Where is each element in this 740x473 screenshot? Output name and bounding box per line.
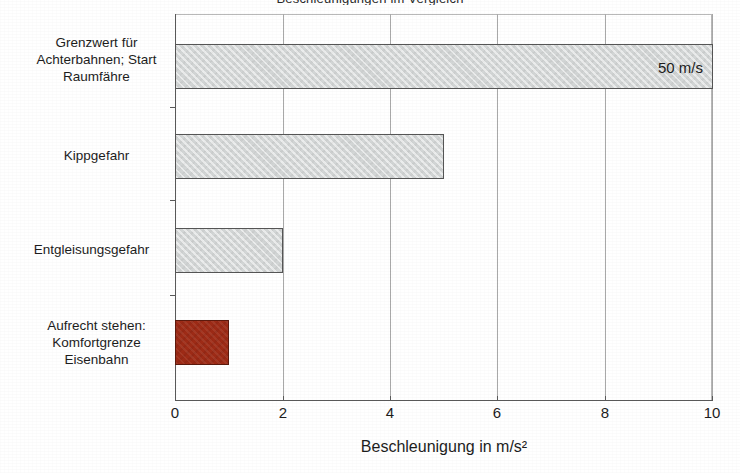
xtick-label-6: 6 <box>493 404 501 421</box>
xtick-label-2: 2 <box>279 404 287 421</box>
ytick-mark-1 <box>170 107 175 108</box>
xtick-label-10: 10 <box>704 404 721 421</box>
bar-value-label-1: 50 m/s <box>658 58 703 75</box>
xtick-mark-10 <box>712 396 713 401</box>
ytick-mark-3 <box>170 295 175 296</box>
xtick-mark-6 <box>497 396 498 401</box>
bar-grenzwert-achterbahnen[interactable]: 50 m/s <box>175 44 713 89</box>
xtick-label-4: 4 <box>386 404 394 421</box>
ytick-mark-2 <box>170 200 175 201</box>
xtick-mark-4 <box>390 396 391 401</box>
xtick-label-0: 0 <box>171 404 179 421</box>
xtick-mark-0 <box>175 396 176 401</box>
x-axis-line <box>175 400 713 401</box>
category-label-entgleisungsgefahr: Entgleisungsgefahr <box>14 241 169 258</box>
bar-kippgefahr[interactable] <box>175 134 444 179</box>
bar-entgleisungsgefahr[interactable] <box>175 228 283 273</box>
xtick-mark-8 <box>605 396 606 401</box>
xtick-label-8: 8 <box>601 404 609 421</box>
xtick-mark-2 <box>283 396 284 401</box>
category-label-grenzwert-achterbahnen: Grenzwert für Achterbahnen; Start Raumfä… <box>24 34 169 85</box>
chart-title-clipped: Beschleunigungen im Vergleich <box>0 0 740 5</box>
bar-chart: Beschleunigungen im Vergleich 50 m/s Gre… <box>0 0 740 473</box>
category-label-aufrecht-stehen: Aufrecht stehen: Komfortgrenze Eisenbahn <box>24 317 169 368</box>
category-label-kippgefahr: Kippgefahr <box>24 147 169 164</box>
bar-aufrecht-stehen-komfortgrenze[interactable] <box>175 320 229 365</box>
x-axis-title: Beschleunigung in m/s² <box>175 438 713 456</box>
chart-title-text: Beschleunigungen im Vergleich <box>0 0 740 5</box>
